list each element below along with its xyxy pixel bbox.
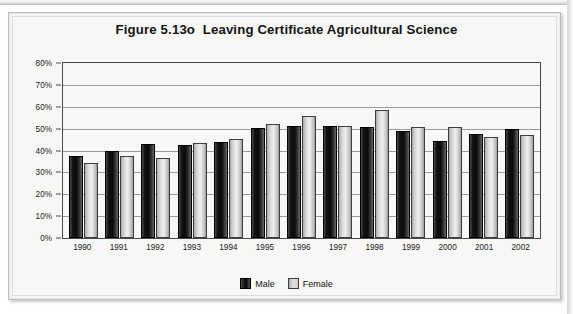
- bar-female-1992: [156, 158, 170, 239]
- bar-group-1998: [356, 63, 392, 238]
- bar-male-1995: [251, 128, 265, 238]
- x-axis-tick-label-2001: 2001: [466, 243, 503, 252]
- y-axis-tick-mark: [56, 238, 61, 239]
- bar-group-1995: [247, 63, 283, 238]
- bar-male-1998: [360, 127, 374, 238]
- y-axis-tick-mark: [56, 106, 61, 107]
- bar-female-1999: [411, 127, 425, 238]
- y-axis-tick-mark: [56, 63, 61, 64]
- bar-group-1990: [65, 63, 101, 238]
- bar-female-1993: [193, 143, 207, 238]
- x-axis-tick-label-1999: 1999: [393, 243, 430, 252]
- bar-group-1999: [393, 63, 429, 238]
- page-right-edge: [567, 0, 573, 314]
- x-axis-labels: 1990199119921993199419951996199719981999…: [62, 243, 541, 252]
- y-axis-tick-mark: [56, 150, 61, 151]
- plot-area: [62, 62, 541, 239]
- bar-male-2001: [469, 134, 483, 238]
- bar-group-2000: [429, 63, 465, 238]
- bar-male-1993: [178, 145, 192, 238]
- bars-layer: [63, 63, 540, 238]
- x-axis-tick-label-1998: 1998: [356, 243, 393, 252]
- legend-label-male: Male: [255, 279, 275, 289]
- legend-item-male: Male: [240, 278, 275, 289]
- bar-group-1996: [283, 63, 319, 238]
- bar-group-2002: [502, 63, 538, 238]
- x-axis-tick-label-1995: 1995: [247, 243, 284, 252]
- y-axis-tick-mark: [56, 194, 61, 195]
- bar-female-1997: [338, 126, 352, 238]
- page-top-edge: [0, 0, 573, 5]
- bar-female-1991: [120, 156, 134, 238]
- legend-swatch-female-icon: [288, 278, 299, 289]
- x-axis-tick-label-1994: 1994: [210, 243, 247, 252]
- bar-female-1996: [302, 116, 316, 239]
- x-axis-tick-label-2000: 2000: [429, 243, 466, 252]
- bar-female-2001: [484, 137, 498, 238]
- y-axis-tick-mark: [56, 172, 61, 173]
- bar-group-1994: [211, 63, 247, 238]
- legend-swatch-male-icon: [240, 278, 251, 289]
- bar-male-2000: [433, 141, 447, 238]
- bar-male-1992: [141, 144, 155, 238]
- x-axis-tick-label-1996: 1996: [283, 243, 320, 252]
- x-axis-tick-label-2002: 2002: [502, 243, 539, 252]
- bar-male-1990: [69, 156, 83, 238]
- bar-group-2001: [465, 63, 501, 238]
- bar-group-1993: [174, 63, 210, 238]
- bar-female-2002: [520, 135, 534, 238]
- bar-female-1998: [375, 110, 389, 238]
- x-axis-tick-label-1991: 1991: [101, 243, 138, 252]
- bar-group-1992: [138, 63, 174, 238]
- x-axis-tick-label-1993: 1993: [174, 243, 211, 252]
- bar-male-1991: [105, 151, 119, 238]
- bar-male-1999: [396, 131, 410, 238]
- legend-label-female: Female: [303, 279, 333, 289]
- legend-item-female: Female: [288, 278, 333, 289]
- x-axis-tick-label-1997: 1997: [320, 243, 357, 252]
- x-axis-tick-label-1990: 1990: [64, 243, 101, 252]
- bar-female-2000: [448, 127, 462, 238]
- chart-plot-wrapper: 80%70%60%50%40%30%20%10%0%: [54, 50, 549, 240]
- bar-female-1994: [229, 139, 243, 238]
- bar-male-1997: [323, 126, 337, 238]
- bar-female-1995: [266, 124, 280, 238]
- x-axis-tick-label-1992: 1992: [137, 243, 174, 252]
- bar-male-1996: [287, 126, 301, 238]
- bar-male-2002: [505, 129, 519, 238]
- chart-legend: Male Female: [0, 278, 573, 289]
- chart-title: Figure 5.13o Leaving Certificate Agricul…: [0, 22, 573, 37]
- bar-group-1997: [320, 63, 356, 238]
- y-axis-tick-mark: [56, 216, 61, 217]
- y-axis-tick-mark: [56, 128, 61, 129]
- bar-group-1991: [101, 63, 137, 238]
- bar-male-1994: [214, 142, 228, 238]
- bar-female-1990: [84, 163, 98, 238]
- y-axis-tick-mark: [56, 84, 61, 85]
